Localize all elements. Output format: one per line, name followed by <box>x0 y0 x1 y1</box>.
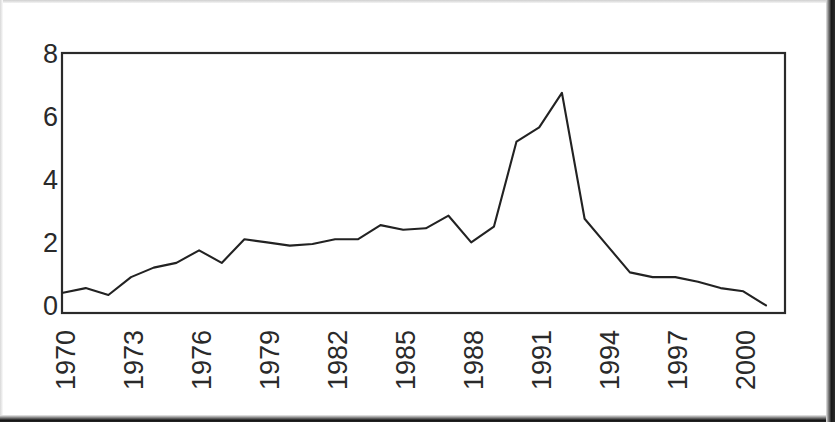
x-tick-label-1991: 1991 <box>529 330 556 390</box>
x-tick-label-1994: 1994 <box>597 330 624 390</box>
x-tick-label-1982: 1982 <box>325 330 352 390</box>
x-tick-label-1985: 1985 <box>393 330 420 390</box>
scan-edge-bottom <box>0 415 826 422</box>
x-tick-label-1979: 1979 <box>257 330 284 390</box>
scan-edge-right <box>826 0 835 422</box>
x-axis-tick-labels: 1970197319761979198219851988199119941997… <box>0 0 826 415</box>
x-tick-label-1997: 1997 <box>665 330 692 390</box>
line-chart-figure: 02468 1970197319761979198219851988199119… <box>0 0 826 415</box>
x-tick-label-1973: 1973 <box>121 330 148 390</box>
x-tick-label-1988: 1988 <box>461 330 488 390</box>
x-tick-label-2000: 2000 <box>733 330 760 390</box>
x-tick-label-1970: 1970 <box>53 330 80 390</box>
x-tick-label-1976: 1976 <box>189 330 216 390</box>
scanned-page: 02468 1970197319761979198219851988199119… <box>0 0 835 422</box>
